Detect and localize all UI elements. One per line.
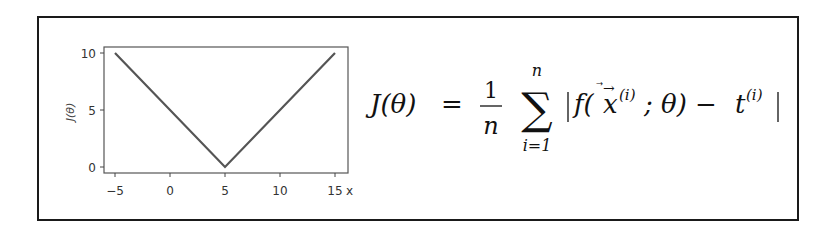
superscript-i-x: (i)	[619, 86, 636, 104]
ytick-5: 5	[88, 104, 96, 118]
y-axis-label: J(θ)	[64, 103, 77, 124]
xtick-neg5: −5	[106, 184, 124, 198]
formula-middle: ; θ) −	[643, 89, 717, 119]
cost-formula: J(θ) = 1 n n ∑ i=1 f( x ⃗→ (i) ; θ) − t …	[365, 61, 778, 155]
superscript-i-t: (i)	[746, 86, 763, 104]
fraction-numerator: 1	[484, 78, 498, 103]
ytick-0: 0	[88, 161, 96, 175]
sum-symbol: ∑	[521, 83, 552, 134]
formula-equals: =	[441, 89, 463, 119]
formula-t: t	[735, 89, 746, 119]
plot-area	[104, 47, 348, 173]
sum-upper-limit: n	[532, 61, 542, 80]
x-axis-label: x	[346, 184, 353, 198]
formula-f: f(	[572, 89, 595, 119]
line-chart: 10 5 0 −5 0 5 10 15 x J(θ) J(θ) = 1 n n …	[0, 0, 836, 225]
xtick-5: 5	[221, 184, 229, 198]
xtick-15: 15	[327, 184, 342, 198]
ytick-10: 10	[81, 47, 96, 61]
fraction-denominator: n	[483, 112, 498, 140]
xtick-0: 0	[166, 184, 174, 198]
sum-lower-limit: i=1	[523, 136, 552, 155]
vector-arrow-icon: ⃗→	[596, 80, 615, 96]
formula-lhs: J(θ)	[365, 89, 416, 119]
xtick-10: 10	[272, 184, 287, 198]
